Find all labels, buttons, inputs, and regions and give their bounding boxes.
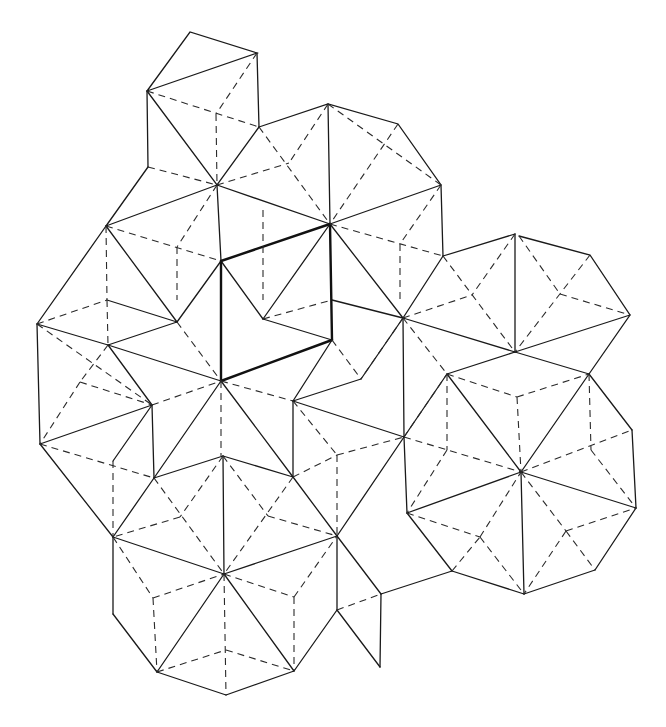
solid-edges: [37, 32, 636, 695]
tiling-net-diagram: [0, 0, 666, 727]
